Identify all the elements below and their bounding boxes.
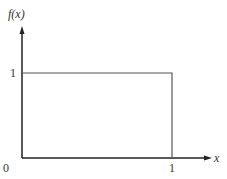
x-tick-label-1: 1 xyxy=(169,161,175,175)
y-axis-label: f(x) xyxy=(8,7,25,21)
x-axis-arrow-icon xyxy=(204,156,212,161)
y-axis-arrow-icon xyxy=(20,26,25,34)
x-axis-label: x xyxy=(213,151,220,165)
uniform-density-plot: f(x) x 1 0 1 xyxy=(0,0,227,179)
density-curve xyxy=(22,73,172,158)
origin-label: 0 xyxy=(3,161,9,175)
y-tick-label-1: 1 xyxy=(10,66,16,80)
